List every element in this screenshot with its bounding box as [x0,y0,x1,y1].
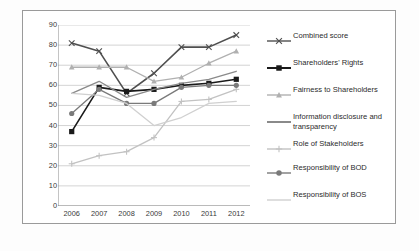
legend-item[interactable]: Fairness to Shareholders [266,85,414,96]
series-group [69,32,239,96]
legend-swatch-icon [266,140,292,150]
legend-label: Responsibility of BOD [292,163,367,173]
series-line [72,51,237,81]
y-tick-label: 20 [31,162,57,170]
legend-item[interactable]: Shareholders' Rights [266,58,414,69]
y-tick-label: 50 [31,101,57,109]
legend-item[interactable]: Information disclosure and transparency [266,112,414,131]
data-point-marker [69,129,74,134]
data-point-marker [234,77,239,82]
series-line [72,71,237,97]
y-tick-label: 90 [31,21,57,29]
data-point-marker [206,96,212,102]
legend-label: Information disclosure and transparency [292,112,414,131]
legend-label: Combined score [292,31,348,41]
x-tick-label: 2007 [84,209,114,218]
chart-border: 0102030405060708090 20062007200820092010… [22,10,396,224]
data-point-marker [234,83,239,88]
legend-swatch-icon [266,113,292,123]
legend-item[interactable]: Role of Stakeholders [266,139,414,150]
legend-item[interactable]: Responsibility of BOD [266,163,414,174]
series-canvas [58,25,250,206]
line-chart-figure: 0102030405060708090 20062007200820092010… [0,0,419,251]
data-point-marker [69,111,74,116]
data-point-marker [233,48,239,53]
legend-label: Fairness to Shareholders [292,85,378,95]
x-tick-label: 2012 [221,209,251,218]
legend-item[interactable]: Responsibility of BOS [266,190,414,201]
legend-swatch-icon [266,191,292,201]
series-line [72,35,237,93]
x-tick-label: 2008 [112,209,142,218]
data-point-marker [276,170,281,175]
legend-label: Responsibility of BOS [292,190,366,200]
x-tick-label: 2010 [166,209,196,218]
series-group [72,71,237,97]
y-tick-label: 10 [31,182,57,190]
series-line [72,89,237,163]
y-tick-label: 40 [31,122,57,130]
data-point-marker [206,83,211,88]
data-point-marker [151,70,157,76]
data-point-marker [151,101,156,106]
chart-legend: Combined scoreShareholders' RightsFairne… [266,31,414,213]
data-point-marker [179,85,184,90]
legend-swatch-icon [266,32,292,42]
data-point-marker [97,87,102,92]
legend-label: Role of Stakeholders [292,139,364,149]
data-point-marker [124,89,129,94]
data-point-marker [124,149,130,155]
x-tick-label: 2006 [57,209,87,218]
plot-area [58,25,250,206]
legend-label: Shareholders' Rights [292,58,363,68]
legend-swatch-icon [266,86,292,96]
series-group [69,86,240,166]
y-tick-label: 30 [31,142,57,150]
data-point-marker [276,146,282,152]
legend-item[interactable]: Combined score [266,31,414,42]
legend-swatch-icon [266,59,292,69]
x-axis-tick-labels: 2006200720082009201020112012 [58,209,258,223]
x-tick-label: 2011 [194,209,224,218]
data-point-marker [276,65,281,70]
y-tick-label: 70 [31,61,57,69]
legend-swatch-icon [266,164,292,174]
y-axis-tick-labels: 0102030405060708090 [29,21,57,211]
x-tick-label: 2009 [139,209,169,218]
y-tick-label: 80 [31,41,57,49]
data-point-marker [96,153,102,159]
y-tick-label: 60 [31,81,57,89]
y-tick-label: 0 [31,202,57,210]
